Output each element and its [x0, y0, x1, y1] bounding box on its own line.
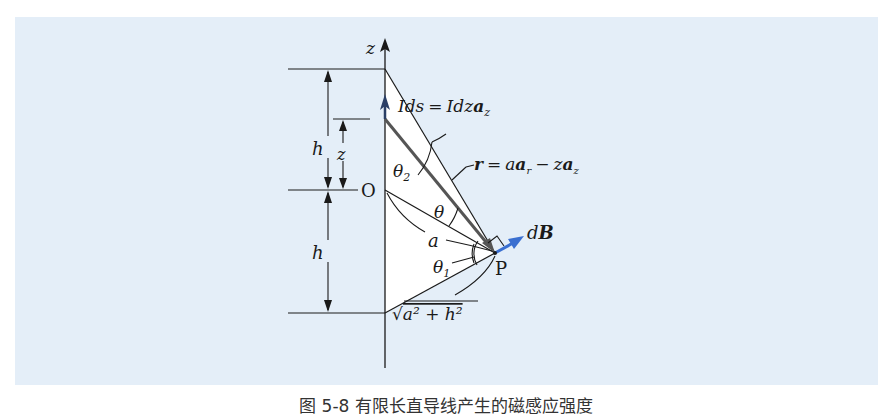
figure-caption: 图 5-8 有限长直导线产生的磁感应强度 — [0, 392, 892, 417]
theta-label: θ — [434, 202, 444, 222]
z-axis-label: z — [365, 38, 376, 58]
dB-arrow-icon — [508, 236, 524, 249]
h-top-arrow-down-icon — [324, 177, 332, 189]
r-vector-label: r=aar−zaz — [474, 154, 579, 176]
z-dim-label: z — [336, 145, 346, 164]
h-bottom-arrow-up-icon — [324, 191, 332, 203]
z-dim-arrow-down-icon — [339, 178, 347, 189]
h-bottom-arrow-down-icon — [324, 300, 332, 312]
h-top-arrow-up-icon — [324, 70, 332, 82]
dB-vector-line — [495, 243, 513, 253]
hypotenuse-label: √a² + h² — [392, 304, 463, 324]
h-bottom-label: h — [312, 242, 324, 263]
point-p-marker — [493, 251, 497, 255]
dB-label: dB — [527, 222, 554, 243]
origin-label: O — [361, 180, 376, 201]
current-element-label: Ids=Idzaz — [397, 96, 490, 119]
a-label: a — [428, 230, 439, 251]
z-dim-arrow-up-icon — [339, 120, 347, 131]
point-p-label: P — [495, 258, 507, 279]
h-top-label: h — [312, 138, 324, 159]
r-leader-line — [452, 167, 466, 180]
